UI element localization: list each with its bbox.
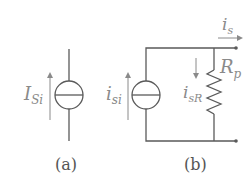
resistor-icon [207, 48, 221, 141]
circuit-diagram: ISi (a) isi isR Rp is (b) [0, 0, 252, 187]
bottom-wire [146, 109, 236, 141]
current-source-a-icon [55, 81, 83, 109]
caption-a: (a) [55, 155, 77, 174]
terminal-bottom-dot [234, 139, 238, 143]
panel-b: isi isR Rp is (b) [106, 14, 242, 174]
source-a-label: ISi [23, 83, 43, 107]
terminal-top-dot [234, 46, 238, 50]
resistor-label: Rp [219, 56, 242, 81]
caption-b: (b) [184, 155, 207, 174]
resistor-current-label: isR [183, 82, 202, 105]
output-current-label: is [222, 14, 233, 37]
current-source-b-icon [132, 81, 160, 109]
panel-a: ISi (a) [23, 49, 83, 174]
source-b-label: isi [106, 83, 122, 107]
